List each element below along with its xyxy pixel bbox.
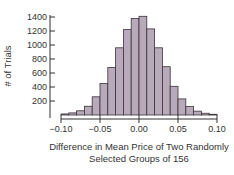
y-tick-label: 400: [32, 82, 47, 92]
y-tick-label: 600: [32, 68, 47, 78]
histogram-bar: [209, 114, 217, 115]
histogram-bar: [162, 67, 170, 115]
x-tick-label: 0.00: [130, 124, 148, 134]
histogram-bars: [61, 16, 217, 115]
x-axis-title-line-1: Difference in Mean Price of Two Randomly: [49, 141, 229, 152]
histogram-bar: [61, 114, 69, 115]
histogram-bar: [201, 113, 209, 115]
histogram-bar: [84, 106, 92, 115]
x-tick-label: −0.10: [50, 124, 73, 134]
histogram-bar: [92, 97, 100, 115]
histogram-bar: [123, 30, 131, 115]
histogram-bar: [194, 111, 202, 115]
y-axis-title: # of Trials: [2, 45, 13, 86]
y-tick-label: 1000: [27, 40, 47, 50]
histogram-bar: [170, 86, 178, 115]
y-tick-label: 800: [32, 54, 47, 64]
y-tick-label: 1200: [27, 26, 47, 36]
histogram-bar: [155, 48, 163, 115]
x-tick-label: 0.10: [208, 124, 226, 134]
histogram-bar: [116, 48, 124, 115]
x-axis: −0.10−0.050.000.050.10: [50, 115, 226, 134]
histogram-bar: [139, 16, 147, 115]
x-tick-label: 0.05: [169, 124, 187, 134]
histogram-bar: [77, 111, 85, 115]
histogram-bar: [186, 107, 194, 115]
histogram-bar: [69, 113, 77, 115]
histogram-chart: 200400600800100012001400 −0.10−0.050.000…: [0, 0, 234, 175]
y-axis: 200400600800100012001400: [27, 12, 55, 118]
x-axis-title-line-2: Selected Groups of 156: [89, 153, 189, 164]
histogram-bar: [178, 99, 186, 115]
y-tick-label: 1400: [27, 12, 47, 22]
histogram-bar: [108, 67, 116, 115]
histogram-bar: [131, 18, 139, 115]
y-tick-label: 200: [32, 96, 47, 106]
histogram-bar: [100, 84, 108, 116]
histogram-bar: [147, 29, 155, 115]
x-tick-label: −0.05: [89, 124, 112, 134]
